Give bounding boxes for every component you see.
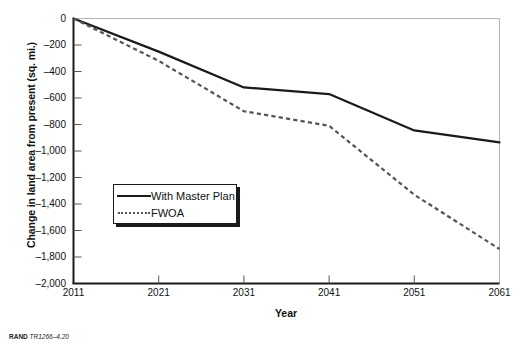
legend-swatch-solid-line-icon [117,190,151,202]
x-tick-label: 2061 [470,288,522,298]
legend-swatch-dashed-line-icon [117,207,151,219]
x-tick-label: 2021 [129,288,189,298]
x-axis-tick-labels: 201120212031204120512061 [0,0,522,310]
x-axis-title: Year [73,307,499,319]
x-tick-label: 2011 [44,288,104,298]
x-tick-label: 2031 [214,288,274,298]
credit-org: RAND [9,333,28,340]
legend-item-with-master-plan: With Master Plan [114,187,236,205]
x-tick-label: 2041 [299,288,359,298]
source-credit: RAND TR1266–4.20 [9,333,69,341]
legend-item-fwoa: FWOA [114,204,236,222]
figure-container: Change in land area from present (sq. mi… [0,0,522,355]
legend-label: FWOA [151,208,184,219]
x-tick-label: 2051 [384,288,444,298]
legend-label: With Master Plan [151,191,235,202]
chart-legend: With Master Plan FWOA [113,184,237,224]
credit-document-id: TR1266–4.20 [30,333,69,340]
